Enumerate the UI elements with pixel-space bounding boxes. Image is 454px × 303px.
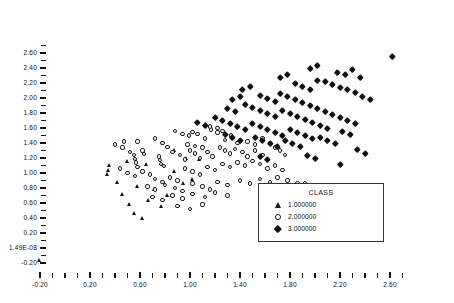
- data-point-class-3: [307, 86, 313, 92]
- x-axis-tick: [289, 272, 291, 278]
- data-point-class-3: [227, 120, 233, 126]
- data-point-class-3: [294, 113, 300, 119]
- y-axis-minor-tick: [41, 240, 46, 241]
- data-point-class-2: [193, 151, 197, 155]
- x-axis-tick: [339, 272, 341, 278]
- legend-entry: 2.000000: [273, 213, 316, 220]
- y-axis-tick: [40, 52, 46, 54]
- data-point-class-3: [272, 98, 278, 104]
- data-point-class-3: [292, 80, 298, 86]
- y-axis-tick: [40, 187, 46, 189]
- data-point-class-3: [234, 123, 240, 129]
- data-point-class-1: [120, 192, 124, 196]
- data-point-class-3: [332, 140, 338, 146]
- data-point-class-2: [228, 151, 232, 155]
- data-point-class-3: [232, 108, 238, 114]
- x-axis-minor-tick: [77, 273, 78, 278]
- data-point-class-3: [347, 131, 353, 137]
- scatter-plot: -0.201.49E-080.200.400.600.801.001.201.4…: [0, 0, 454, 303]
- data-point-class-2: [153, 136, 157, 140]
- x-axis-minor-tick: [402, 273, 403, 278]
- data-point-class-3: [257, 107, 263, 113]
- data-point-class-3: [297, 143, 303, 149]
- data-point-class-3: [257, 92, 263, 98]
- x-axis-minor-tick: [52, 273, 53, 278]
- data-point-class-1: [132, 211, 136, 215]
- y-axis-tick-label: 1.00: [24, 169, 37, 176]
- data-point-class-2: [170, 150, 174, 154]
- y-axis-tick: [40, 172, 46, 174]
- data-point-class-2: [165, 145, 169, 149]
- data-point-class-2: [203, 136, 207, 140]
- data-point-class-2: [163, 183, 167, 187]
- y-axis-tick-label: 1.80: [24, 109, 37, 116]
- data-point-class-3: [362, 150, 368, 156]
- data-point-class-2: [160, 198, 164, 202]
- data-point-class-2: [142, 152, 146, 156]
- data-point-class-2: [258, 162, 262, 166]
- data-point-class-3: [337, 84, 343, 90]
- data-point-class-1: [165, 193, 169, 197]
- data-point-class-1: [127, 202, 131, 206]
- y-axis-minor-tick: [41, 255, 46, 256]
- data-point-class-2: [253, 142, 257, 146]
- data-point-class-2: [160, 141, 164, 145]
- legend-box: CLASS 1.0000002.0000003.000000: [258, 183, 384, 242]
- x-axis-minor-tick: [264, 273, 265, 278]
- data-point-class-2: [173, 186, 177, 190]
- data-point-class-3: [259, 137, 265, 143]
- data-point-class-2: [258, 177, 262, 181]
- data-point-class-1: [37, 258, 41, 262]
- data-point-class-3: [282, 137, 288, 143]
- x-axis-minor-tick: [177, 273, 178, 278]
- data-point-class-3: [237, 93, 243, 99]
- data-point-class-3: [337, 114, 343, 120]
- y-axis-tick: [40, 217, 46, 219]
- data-point-class-2: [180, 132, 184, 136]
- data-point-class-2: [285, 178, 289, 182]
- data-point-class-3: [219, 117, 225, 123]
- x-axis-minor-tick: [364, 273, 365, 278]
- y-axis-minor-tick: [41, 165, 46, 166]
- data-point-class-3: [354, 146, 360, 152]
- data-point-class-2: [150, 195, 154, 199]
- x-axis-tick: [389, 272, 391, 278]
- x-axis-tick: [239, 272, 241, 278]
- data-point-class-3: [307, 65, 313, 71]
- data-point-class-3: [264, 156, 270, 162]
- y-axis-tick: [40, 142, 46, 144]
- x-axis-tick: [89, 272, 91, 278]
- data-point-class-3: [277, 74, 283, 80]
- data-point-class-2: [175, 204, 179, 208]
- y-axis-tick: [40, 232, 46, 234]
- data-point-class-3: [247, 83, 253, 89]
- x-axis-tick: [139, 272, 141, 278]
- data-point-class-3: [312, 155, 318, 161]
- y-axis-tick-label: 0.60: [24, 199, 37, 206]
- data-point-class-3: [194, 119, 200, 125]
- data-point-class-3: [314, 77, 320, 83]
- data-point-class-3: [389, 53, 395, 59]
- data-point-class-3: [242, 101, 248, 107]
- data-point-class-2: [195, 132, 199, 136]
- data-point-class-1: [135, 184, 139, 188]
- data-point-class-3: [329, 81, 335, 87]
- data-point-class-2: [205, 165, 209, 169]
- y-axis-minor-tick: [41, 60, 46, 61]
- diamond-marker-icon: [273, 226, 282, 232]
- data-point-class-2: [122, 139, 126, 143]
- data-point-class-3: [264, 95, 270, 101]
- data-point-class-3: [289, 140, 295, 146]
- data-point-class-3: [249, 120, 255, 126]
- data-point-class-3: [329, 111, 335, 117]
- data-point-class-1: [172, 169, 176, 173]
- data-point-class-3: [284, 71, 290, 77]
- data-point-class-3: [242, 126, 248, 132]
- data-point-class-3: [344, 86, 350, 92]
- data-point-class-2: [170, 193, 174, 197]
- data-point-class-2: [245, 139, 249, 143]
- data-point-class-3: [294, 129, 300, 135]
- x-axis-tick-label: 0.20: [70, 281, 110, 288]
- legend-entry-label: 1.000000: [288, 201, 316, 208]
- data-point-class-2: [240, 150, 244, 154]
